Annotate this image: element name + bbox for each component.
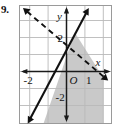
y-negative-tick-label: -2	[56, 91, 65, 103]
x-positive-tick-label: 1	[86, 74, 92, 86]
x-axis-letter-label: x	[95, 56, 101, 68]
y-axis-letter-label: y	[56, 10, 62, 22]
problem-number-label: 9.	[1, 4, 9, 15]
origin-label: O	[70, 74, 78, 86]
coordinate-graph-svg: y x O 2 -2 -2 1	[19, 5, 112, 124]
y-positive-tick-label: 2	[58, 32, 64, 44]
figure-container: 9.	[0, 0, 114, 129]
graph-plate: y x O 2 -2 -2 1	[19, 5, 112, 124]
x-negative-tick-label: -2	[24, 74, 33, 86]
